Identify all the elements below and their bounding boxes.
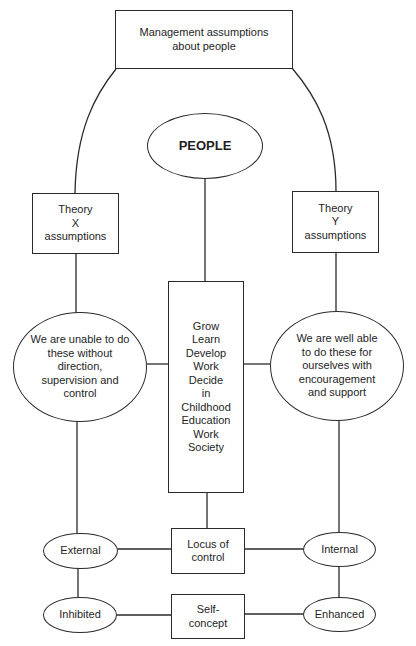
enhanced-label: Enhanced [315,608,365,622]
able-ellipse: We are well able to do these for ourselv… [270,311,404,421]
people-ellipse: PEOPLE [147,113,263,179]
center-activities-label: Grow Learn Develop Work Decide in Childh… [181,320,231,455]
theory-x-label: Theory X assumptions [45,203,107,244]
internal-label: Internal [321,543,358,557]
inhibited-label: Inhibited [59,608,101,622]
center-activities-box: Grow Learn Develop Work Decide in Childh… [168,281,244,493]
theory-y-label: Theory Y assumptions [305,202,367,243]
external-label: External [60,544,100,558]
edge-top-theory-x [75,69,116,193]
enhanced-ellipse: Enhanced [303,597,376,632]
inhibited-ellipse: Inhibited [43,597,117,633]
internal-ellipse: Internal [303,532,376,567]
theory-y-box: Theory Y assumptions [292,191,379,253]
edge-top-theory-y [292,68,336,191]
management-assumptions-box: Management assumptions about people [115,10,293,69]
self-concept-box: Self- concept [171,594,245,639]
self-concept-label: Self- concept [189,603,228,630]
unable-label: We are unable to do these without direct… [31,333,130,401]
external-ellipse: External [43,533,118,569]
unable-ellipse: We are unable to do these without direct… [13,312,147,422]
theory-x-box: Theory X assumptions [32,193,119,254]
locus-of-control-box: Locus of control [171,528,245,574]
management-assumptions-label: Management assumptions about people [139,26,268,53]
people-label: PEOPLE [179,139,232,153]
able-label: We are well able to do these for ourselv… [296,332,377,400]
locus-of-control-label: Locus of control [187,538,229,565]
